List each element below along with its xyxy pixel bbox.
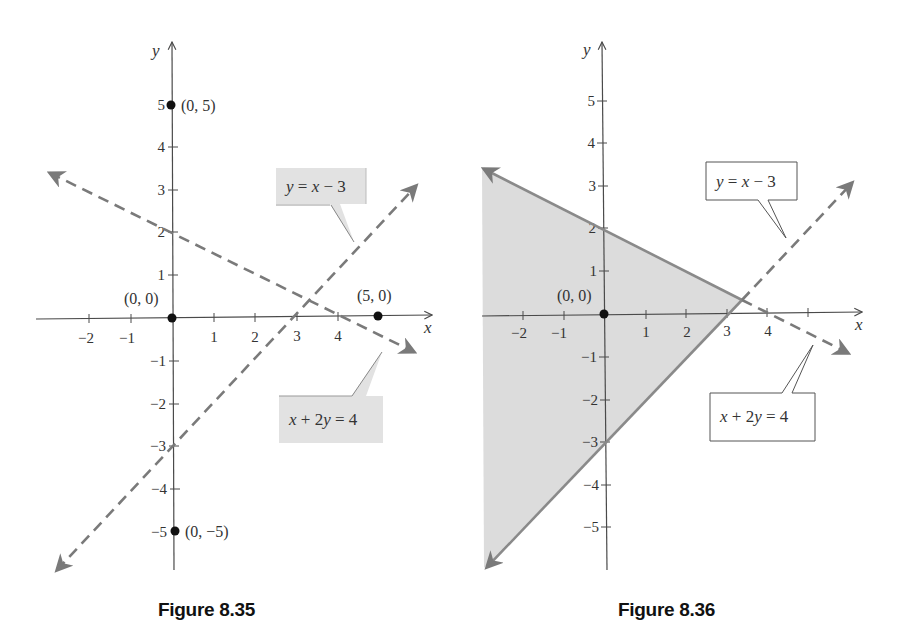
y-axis-label: y (150, 41, 160, 60)
y-tick-label: −1 (150, 353, 166, 369)
x-axis (36, 315, 432, 319)
line-y-equals-x-minus-3 (57, 186, 416, 570)
x-tick-label: 3 (723, 323, 731, 339)
y-tick-label: 3 (158, 182, 166, 198)
y-axis-label: y (581, 40, 591, 59)
y-tick-label: −5 (151, 524, 167, 540)
point-label: (0, 0) (124, 290, 159, 308)
y-tick-label: −3 (582, 434, 598, 450)
callout-y-equals-x-minus-3: y = x − 3 (706, 162, 797, 238)
figure-8-36: −2 −1 1 2 3 4 5 4 3 2 1 −1 −2 −3 −4 −5 y… (482, 40, 863, 570)
y-tick-label: −5 (583, 519, 599, 535)
x-tick-label: −2 (511, 325, 527, 341)
y-tick-label: −3 (150, 438, 166, 454)
x-tick-label: 4 (334, 328, 342, 344)
x-tick-label: −1 (119, 330, 135, 346)
x-tick-label: 1 (210, 329, 218, 345)
callout-x-plus-2y-equals-4: x + 2y = 4 (710, 345, 815, 441)
y-tick-label: −4 (583, 477, 599, 493)
line-x-plus-2y-equals-4 (742, 300, 848, 353)
point-label: (5, 0) (357, 287, 392, 305)
callout-y-equals-x-minus-3: y = x − 3 (276, 168, 366, 242)
figures-canvas: −2 −1 1 2 3 4 5 4 3 2 1 −1 −2 −3 −4 −5 y… (0, 0, 910, 642)
y-tick-label: 5 (588, 93, 596, 109)
x-tick-label: −1 (551, 325, 567, 341)
point-0-neg5 (171, 527, 180, 536)
x-tick-label: 2 (683, 324, 691, 340)
point-0-0 (168, 314, 177, 323)
svg-text:y = x − 3: y = x − 3 (714, 172, 776, 191)
point-label: (0, −5) (185, 523, 229, 541)
point-label: (0, 5) (181, 97, 216, 115)
y-axis (172, 42, 174, 570)
y-tick-label: 2 (158, 224, 166, 240)
figure-caption-8-35: Figure 8.35 (158, 599, 255, 621)
y-tick-label: 4 (158, 139, 166, 155)
y-tick-label: −4 (151, 481, 167, 497)
x-tick-label: 1 (642, 324, 650, 340)
y-tick-label: −1 (581, 349, 597, 365)
x-tick-label: −2 (78, 330, 94, 346)
y-tick-label: 5 (158, 97, 166, 113)
svg-text:x + 2y = 4: x + 2y = 4 (288, 410, 358, 429)
point-5-0 (374, 312, 383, 321)
y-tick-label: 4 (588, 135, 596, 151)
x-tick-label: 4 (764, 323, 772, 339)
y-tick-label: −2 (582, 392, 598, 408)
x-tick-label: 3 (293, 328, 301, 344)
y-tick-label: 3 (589, 178, 597, 194)
y-tick-label: −2 (150, 396, 166, 412)
point-0-5 (167, 101, 176, 110)
x-axis-label: x (854, 315, 863, 334)
x-tick-label: 2 (251, 329, 259, 345)
point-label: (0, 0) (557, 287, 592, 305)
svg-text:y = x − 3: y = x − 3 (284, 177, 346, 196)
y-tick-label: 1 (590, 263, 598, 279)
callout-x-plus-2y-equals-4: x + 2y = 4 (279, 352, 383, 443)
figure-caption-8-36: Figure 8.36 (618, 599, 715, 621)
svg-text:x + 2y = 4: x + 2y = 4 (719, 407, 789, 426)
y-tick-label: 1 (158, 267, 166, 283)
shaded-region (482, 168, 742, 568)
x-axis-label: x (423, 318, 432, 337)
point-0-0 (600, 310, 609, 319)
figure-8-35: −2 −1 1 2 3 4 5 4 3 2 1 −1 −2 −3 −4 −5 y… (36, 41, 432, 570)
